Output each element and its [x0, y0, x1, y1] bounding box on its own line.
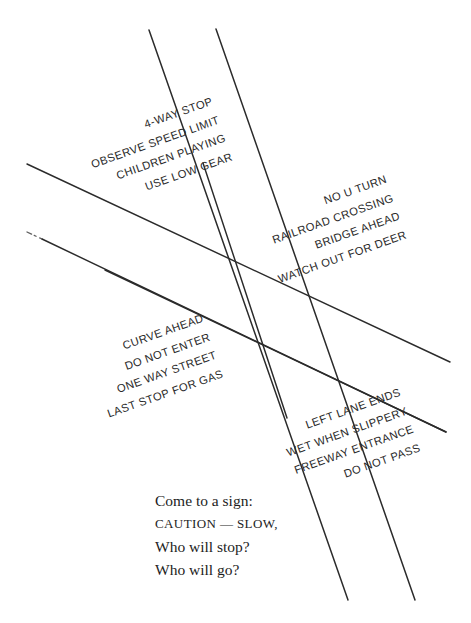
shallow-road-line-2-faded-head [27, 232, 44, 240]
poem-line: Who will stop? [155, 535, 278, 558]
poem-line: Come to a sign: [155, 489, 278, 512]
poem-line: Who will go? [155, 558, 278, 581]
poem-block: Come to a sign: CAUTION — SLOW, Who will… [155, 489, 278, 581]
poster-canvas: 4-WAY STOP OBSERVE SPEED LIMIT CHILDREN … [0, 0, 471, 623]
poem-line: CAUTION — SLOW, [155, 512, 278, 535]
